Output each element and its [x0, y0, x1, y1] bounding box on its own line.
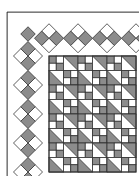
jacobs-ladder-quilt-diagram [0, 0, 139, 176]
